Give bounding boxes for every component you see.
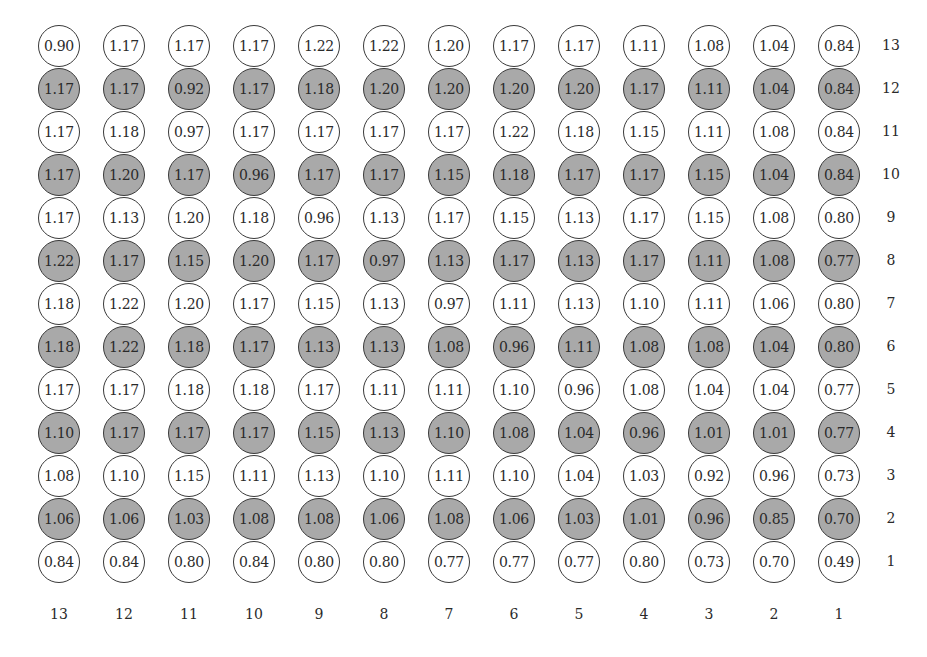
grid-cell: 1.08 (753, 111, 795, 153)
grid-cell: 1.20 (428, 68, 470, 110)
grid-cell: 1.11 (558, 326, 600, 368)
grid-cell: 1.13 (363, 326, 405, 368)
grid-cell: 1.08 (428, 326, 470, 368)
row-label: 10 (876, 166, 906, 182)
grid-cell: 0.77 (818, 412, 860, 454)
grid-cell: 1.17 (233, 412, 275, 454)
grid-cell: 0.73 (818, 455, 860, 497)
grid-cell: 1.06 (38, 498, 80, 540)
grid-cell: 1.13 (558, 197, 600, 239)
grid-cell: 0.97 (363, 240, 405, 282)
grid-cell: 1.11 (428, 369, 470, 411)
grid-cell: 1.17 (623, 68, 665, 110)
grid-cell: 1.08 (493, 412, 535, 454)
row-label: 6 (876, 338, 906, 354)
row-label: 5 (876, 381, 906, 397)
column-label: 9 (304, 606, 334, 622)
grid-cell: 1.17 (298, 154, 340, 196)
grid-cell: 1.17 (103, 25, 145, 67)
grid-cell: 0.49 (818, 541, 860, 583)
grid-cell: 0.92 (168, 68, 210, 110)
grid-cell: 1.15 (168, 455, 210, 497)
grid-cell: 1.11 (428, 455, 470, 497)
grid-cell: 1.17 (38, 68, 80, 110)
grid-cell: 1.17 (558, 154, 600, 196)
grid-cell: 1.15 (428, 154, 470, 196)
grid-cell: 1.17 (493, 240, 535, 282)
grid-cell: 1.15 (298, 412, 340, 454)
grid-cell: 0.84 (818, 154, 860, 196)
grid-cell: 0.84 (38, 541, 80, 583)
grid-cell: 1.13 (428, 240, 470, 282)
grid-cell: 1.17 (38, 197, 80, 239)
grid-cell: 1.13 (298, 455, 340, 497)
grid-cell: 1.10 (38, 412, 80, 454)
grid-cell: 1.13 (363, 197, 405, 239)
grid-cell: 1.17 (298, 240, 340, 282)
grid-cell: 1.10 (428, 412, 470, 454)
grid-cell: 1.13 (363, 412, 405, 454)
grid-cell: 1.08 (233, 498, 275, 540)
grid-cell: 1.11 (233, 455, 275, 497)
grid-cell: 0.96 (558, 369, 600, 411)
grid-cell: 1.20 (168, 283, 210, 325)
grid-cell: 1.17 (103, 369, 145, 411)
grid-cell: 1.17 (168, 154, 210, 196)
grid-cell: 1.22 (103, 326, 145, 368)
grid-cell: 1.06 (363, 498, 405, 540)
grid-cell: 1.10 (493, 369, 535, 411)
grid-cell: 0.70 (753, 541, 795, 583)
row-label: 3 (876, 467, 906, 483)
grid-cell: 1.08 (753, 240, 795, 282)
grid-cell: 1.17 (233, 283, 275, 325)
grid-cell: 1.13 (103, 197, 145, 239)
grid-cell: 1.10 (623, 283, 665, 325)
grid-cell: 0.84 (818, 25, 860, 67)
column-label: 6 (499, 606, 529, 622)
grid-cell: 0.77 (428, 541, 470, 583)
grid-cell: 0.96 (233, 154, 275, 196)
grid-cell: 1.04 (753, 154, 795, 196)
grid-cell: 1.22 (493, 111, 535, 153)
row-label: 2 (876, 510, 906, 526)
grid-cell: 1.10 (493, 455, 535, 497)
grid-cell: 1.06 (753, 283, 795, 325)
grid-cell: 1.22 (38, 240, 80, 282)
grid-cell: 1.06 (493, 498, 535, 540)
grid-cell: 0.96 (753, 455, 795, 497)
row-label: 9 (876, 209, 906, 225)
grid-cell: 0.96 (298, 197, 340, 239)
grid-cell: 1.18 (168, 326, 210, 368)
column-label: 11 (174, 606, 204, 622)
grid-cell: 1.15 (493, 197, 535, 239)
grid-cell: 1.08 (623, 326, 665, 368)
row-label: 11 (876, 123, 906, 139)
column-label: 8 (369, 606, 399, 622)
grid-cell: 0.96 (493, 326, 535, 368)
grid-cell: 1.17 (428, 197, 470, 239)
grid-cell: 0.77 (558, 541, 600, 583)
grid-cell: 0.77 (818, 240, 860, 282)
grid-cell: 1.11 (623, 25, 665, 67)
grid-cell: 1.04 (753, 369, 795, 411)
grid-cell: 1.17 (233, 25, 275, 67)
grid-cell: 1.13 (363, 283, 405, 325)
grid-cell: 1.18 (38, 283, 80, 325)
grid-cell: 1.17 (233, 68, 275, 110)
grid-cell: 1.06 (103, 498, 145, 540)
grid-cell: 1.20 (363, 68, 405, 110)
grid-cell: 1.17 (38, 111, 80, 153)
grid-cell: 1.18 (558, 111, 600, 153)
value-grid-diagram: 0.901.171.171.171.221.221.201.171.171.11… (0, 0, 927, 657)
grid-cell: 0.80 (818, 326, 860, 368)
grid-cell: 1.11 (688, 240, 730, 282)
grid-cell: 1.18 (493, 154, 535, 196)
row-label: 1 (876, 553, 906, 569)
grid-cell: 1.08 (298, 498, 340, 540)
grid-cell: 1.08 (753, 197, 795, 239)
grid-cell: 1.17 (298, 111, 340, 153)
grid-cell: 1.11 (493, 283, 535, 325)
grid-cell: 0.80 (818, 197, 860, 239)
grid-cell: 0.80 (168, 541, 210, 583)
grid-cell: 1.17 (363, 111, 405, 153)
